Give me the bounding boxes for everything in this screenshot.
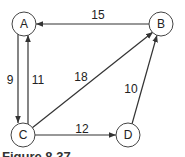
edge-d-to-b	[132, 35, 157, 124]
node-d-label: D	[124, 128, 133, 142]
weight-d-b: 10	[124, 82, 138, 96]
node-c-label: C	[19, 128, 28, 142]
graph-diagram: 15 9 11 18 12 10 A B C D	[0, 0, 185, 157]
weight-a-c: 9	[7, 73, 14, 87]
node-a: A	[12, 12, 36, 36]
weight-c-b: 18	[74, 70, 88, 84]
node-c: C	[11, 123, 35, 147]
node-d: D	[116, 123, 140, 147]
weight-c-d: 12	[75, 122, 89, 136]
node-a-label: A	[20, 17, 28, 31]
weight-b-a: 15	[91, 8, 105, 22]
node-b-label: B	[157, 17, 165, 31]
node-b: B	[149, 12, 173, 36]
weight-c-a: 11	[32, 73, 45, 87]
figure-caption: Figure 8.37	[2, 149, 71, 157]
